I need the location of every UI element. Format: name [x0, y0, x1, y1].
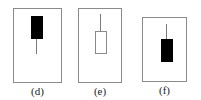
- candlestick-glyph: [143, 18, 188, 83]
- candlestick-panel-f: (f): [142, 17, 187, 98]
- candlestick-panel-d: (d): [13, 8, 62, 99]
- lower-shadow-line: [36, 39, 37, 54]
- panel-border-box: [142, 17, 187, 82]
- filled-candle-body: [31, 16, 43, 39]
- candlestick-panel-e: (e): [78, 8, 122, 99]
- upper-shadow-line: [166, 24, 167, 39]
- candlestick-glyph: [79, 9, 123, 84]
- panel-caption: (e): [78, 85, 122, 98]
- panel-caption: (f): [142, 84, 187, 97]
- panel-border-box: [78, 8, 122, 83]
- panel-border-box: [13, 8, 62, 83]
- candlestick-figure: (d)(e)(f): [0, 0, 201, 100]
- filled-candle-body: [161, 39, 173, 62]
- candlestick-glyph: [14, 9, 63, 84]
- panel-caption: (d): [13, 85, 62, 98]
- upper-shadow-line: [100, 14, 101, 31]
- hollow-candle-body: [95, 31, 107, 54]
